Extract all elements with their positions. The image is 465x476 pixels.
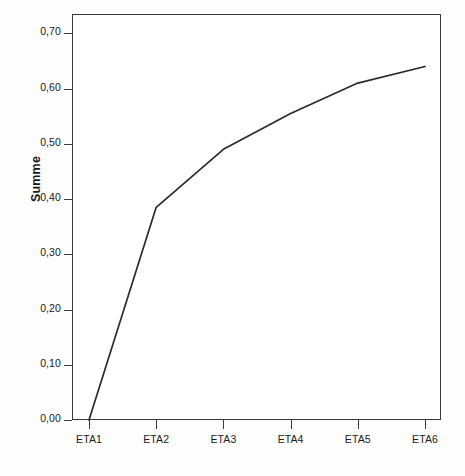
y-axis-title: Summe: [29, 139, 43, 219]
y-axis-tick-label: 0,00: [40, 412, 61, 424]
y-axis-tick-mark: [64, 33, 72, 34]
y-axis-tick-mark: [64, 420, 72, 421]
x-axis-tick-label: ETA2: [126, 433, 186, 445]
x-axis-tick-label: ETA1: [59, 433, 119, 445]
y-axis-tick-mark: [64, 144, 72, 145]
x-axis-tick-mark: [291, 420, 292, 429]
x-axis-tick-label: ETA4: [261, 433, 321, 445]
y-axis-tick-mark: [64, 89, 72, 90]
y-axis-tick-label: 0,20: [40, 302, 61, 314]
y-axis-tick-label: 0,40: [40, 191, 61, 203]
x-axis-tick-mark: [425, 420, 426, 429]
x-axis-tick-mark: [223, 420, 224, 429]
plot-area: [72, 14, 441, 420]
x-axis-tick-label: ETA5: [328, 433, 388, 445]
y-axis-tick-mark: [64, 365, 72, 366]
y-axis-tick-mark: [64, 254, 72, 255]
y-axis-tick-label: 0,10: [40, 357, 61, 369]
y-axis-tick-label: 0,30: [40, 246, 61, 258]
chart-page: Summe 0,000,100,200,300,400,500,600,70 E…: [0, 0, 465, 476]
y-axis-tick-mark: [64, 310, 72, 311]
x-axis-tick-mark: [156, 420, 157, 429]
x-axis-tick-label: ETA6: [395, 433, 455, 445]
x-axis-tick-mark: [358, 420, 359, 429]
y-axis-tick-label: 0,50: [40, 136, 61, 148]
x-axis-tick-mark: [89, 420, 90, 429]
y-axis-tick-mark: [64, 199, 72, 200]
x-axis-tick-label: ETA3: [193, 433, 253, 445]
y-axis-tick-label: 0,70: [40, 25, 61, 37]
y-axis-tick-label: 0,60: [40, 81, 61, 93]
